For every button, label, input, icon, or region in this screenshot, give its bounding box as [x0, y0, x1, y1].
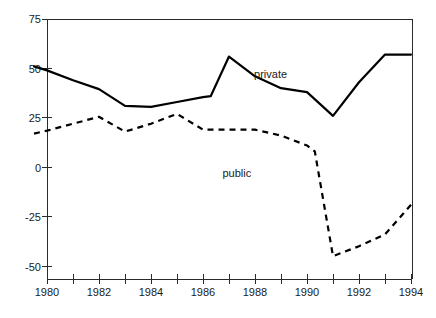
y-tick-label-0: 0: [35, 162, 41, 174]
y-tick-label-neg25: -25: [25, 211, 41, 223]
x-axis-tick-labels: 1980 1982 1984 1986 1988 1990 1992 1994: [35, 286, 423, 298]
x-tick-label-1988: 1988: [243, 286, 267, 298]
y-tick-label-75: 75: [29, 13, 41, 25]
series-label-public: public: [222, 167, 251, 179]
y-tick-label-25: 25: [29, 112, 41, 124]
x-tick-label-1990: 1990: [295, 286, 319, 298]
series-line-private: [34, 55, 411, 116]
series-line-public: [34, 114, 411, 256]
line-chart: 75 50 25 0 -25 -50 1980 1982 1984 1986 1…: [0, 0, 436, 318]
x-tick-label-1982: 1982: [87, 286, 111, 298]
y-axis-tick-labels: 75 50 25 0 -25 -50: [25, 13, 41, 273]
x-tick-label-1986: 1986: [191, 286, 215, 298]
y-tick-label-neg50: -50: [25, 261, 41, 273]
x-tick-label-1984: 1984: [139, 286, 163, 298]
x-tick-label-1994: 1994: [399, 286, 423, 298]
chart-container: 75 50 25 0 -25 -50 1980 1982 1984 1986 1…: [0, 0, 436, 318]
x-tick-label-1980: 1980: [35, 286, 59, 298]
x-tick-label-1992: 1992: [347, 286, 371, 298]
series-label-private: private: [254, 68, 287, 80]
